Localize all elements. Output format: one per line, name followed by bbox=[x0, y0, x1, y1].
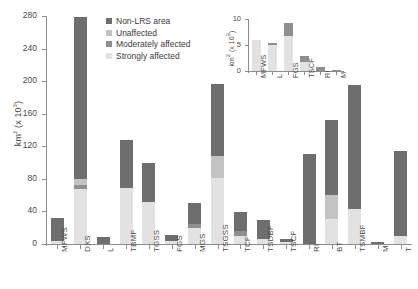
y-axis-tick: 0 bbox=[245, 71, 249, 72]
x-axis-tick bbox=[309, 244, 310, 249]
x-axis-tick bbox=[320, 71, 321, 75]
bar bbox=[371, 242, 384, 244]
bar-segment bbox=[371, 242, 384, 244]
x-axis-tick-label: RI bbox=[323, 70, 332, 78]
inset-plot-area: 0510MFWSLFGSTSCFRIM bbox=[248, 20, 344, 72]
legend-swatch-icon bbox=[106, 18, 112, 24]
x-axis-tick-label: TSMBF bbox=[358, 224, 367, 252]
main-y-axis-title: km2 (x 103) bbox=[12, 84, 23, 164]
x-axis-tick-label: MGS bbox=[198, 233, 207, 252]
x-axis-tick bbox=[126, 244, 127, 249]
legend-label: Moderately affected bbox=[116, 39, 191, 49]
y-axis-tick: 200 bbox=[42, 81, 47, 82]
y-axis-tick-label: 240 bbox=[23, 43, 37, 53]
y-axis-tick: 280 bbox=[42, 16, 47, 17]
x-axis-tick-label: BT bbox=[335, 242, 344, 252]
x-axis-tick-label: M bbox=[339, 72, 348, 78]
x-axis-tick-label: TCF bbox=[243, 236, 252, 252]
y-axis-tick-label: 200 bbox=[23, 75, 37, 85]
bar-segment bbox=[325, 195, 338, 219]
x-axis-tick-label: TSDBF bbox=[266, 225, 275, 252]
y-axis-tick-label: 5 bbox=[237, 40, 241, 49]
x-axis-tick bbox=[288, 71, 289, 75]
x-axis-tick-label: M bbox=[381, 245, 390, 252]
x-axis-tick-label: T bbox=[404, 247, 413, 252]
x-axis-tick bbox=[256, 71, 257, 75]
x-axis-tick-label: L bbox=[106, 247, 115, 252]
x-axis-tick bbox=[218, 244, 219, 249]
y-axis-tick: 240 bbox=[42, 49, 47, 50]
bar bbox=[325, 120, 338, 244]
x-axis-tick bbox=[103, 244, 104, 249]
y-axis-tick-label: 120 bbox=[23, 140, 37, 150]
bar-segment bbox=[394, 151, 407, 236]
x-axis-tick bbox=[332, 244, 333, 249]
legend-label: Unaffected bbox=[116, 28, 157, 38]
bar-segment bbox=[348, 85, 361, 209]
bar bbox=[303, 154, 316, 244]
bar-segment bbox=[142, 163, 155, 202]
legend-label: Non-LRS area bbox=[116, 16, 170, 26]
legend-item: Strongly affected bbox=[106, 51, 191, 61]
x-axis-tick bbox=[240, 244, 241, 249]
y-axis-tick-label: 0 bbox=[237, 66, 241, 75]
inset-y-axis-title: km2 (x 103) bbox=[225, 17, 234, 81]
bar bbox=[268, 43, 277, 71]
x-axis-tick-label: TGSS bbox=[152, 230, 161, 252]
x-axis-tick bbox=[263, 244, 264, 249]
legend-item: Moderately affected bbox=[106, 39, 191, 49]
x-axis-tick bbox=[272, 71, 273, 75]
x-axis-tick-label: TSCF bbox=[289, 231, 298, 252]
x-axis-tick bbox=[401, 244, 402, 249]
bar bbox=[74, 17, 87, 244]
legend-swatch-icon bbox=[106, 41, 112, 47]
x-axis-tick bbox=[80, 244, 81, 249]
bar-segment bbox=[74, 17, 87, 179]
y-axis-tick-label: 80 bbox=[28, 173, 37, 183]
legend: Non-LRS areaUnaffectedModerately affecte… bbox=[106, 16, 191, 61]
bar-segment bbox=[234, 212, 247, 231]
bar bbox=[348, 85, 361, 244]
x-axis-tick bbox=[336, 71, 337, 75]
bar-segment bbox=[325, 219, 338, 244]
y-axis-tick: 80 bbox=[42, 179, 47, 180]
bar bbox=[394, 151, 407, 244]
bar-segment bbox=[120, 140, 133, 188]
y-axis-tick-label: 160 bbox=[23, 108, 37, 118]
inset-y-axis-line bbox=[248, 20, 249, 73]
x-axis-tick-label: FGS bbox=[175, 235, 184, 252]
bar-segment bbox=[303, 154, 316, 244]
x-axis-tick bbox=[195, 244, 196, 249]
bar-segment bbox=[97, 237, 110, 244]
x-axis-tick bbox=[286, 244, 287, 249]
x-axis-tick-label: DXS bbox=[83, 235, 92, 252]
x-axis-tick bbox=[355, 244, 356, 249]
y-axis-tick-label: 280 bbox=[23, 10, 37, 20]
x-axis-tick-label: TSGSS bbox=[221, 224, 230, 252]
bar-segment bbox=[394, 236, 407, 244]
bar-segment bbox=[268, 45, 277, 71]
x-axis-tick bbox=[172, 244, 173, 249]
x-axis-tick-label: MFWS bbox=[60, 227, 69, 252]
x-axis-tick-label: TBMF bbox=[129, 230, 138, 252]
bar-segment bbox=[325, 120, 338, 195]
y-axis-tick: 160 bbox=[42, 114, 47, 115]
bar bbox=[97, 237, 110, 244]
y-axis-tick: 120 bbox=[42, 146, 47, 147]
y-axis-tick-label: 40 bbox=[28, 205, 37, 215]
y-axis-tick: 5 bbox=[245, 45, 249, 46]
y-axis-tick-label: 0 bbox=[32, 238, 37, 248]
x-axis-tick-label: L bbox=[275, 74, 284, 78]
bar-segment bbox=[211, 156, 224, 178]
x-axis-tick bbox=[57, 244, 58, 249]
legend-label: Strongly affected bbox=[116, 51, 180, 61]
y-axis-tick: 40 bbox=[42, 211, 47, 212]
y-axis-tick-label: 10 bbox=[233, 14, 241, 23]
x-axis-tick bbox=[378, 244, 379, 249]
inset-chart: km2 (x 103) 0510MFWSLFGSTSCFRIM bbox=[222, 16, 350, 112]
legend-item: Non-LRS area bbox=[106, 16, 191, 26]
x-axis-tick bbox=[149, 244, 150, 249]
x-axis-tick-label: RI bbox=[312, 244, 321, 252]
legend-swatch-icon bbox=[106, 30, 112, 36]
x-axis-tick bbox=[304, 71, 305, 75]
